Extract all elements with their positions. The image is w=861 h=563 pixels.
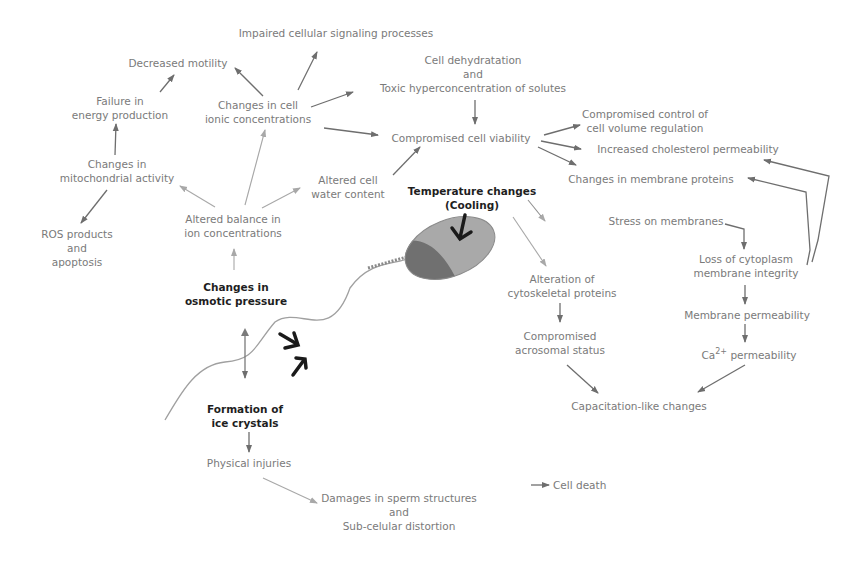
node-temperature: Temperature changes (Cooling) [408, 184, 536, 212]
node-ionic-changes: Changes in cell ionic concentrations [205, 98, 311, 126]
node-cholesterol: Increased cholesterol permeability [597, 142, 779, 156]
node-membrane-permeability: Membrane permeability [684, 308, 810, 322]
node-volume-control: Compromised control of cell volume regul… [582, 107, 708, 135]
node-cell-dehydration: Cell dehydratation and Toxic hyperconcen… [380, 53, 566, 95]
node-acrosomal: Compromised acrosomal status [515, 329, 605, 357]
sperm-midpiece [368, 256, 410, 268]
sperm-head [396, 204, 504, 291]
node-cytoskeletal: Alteration of cytoskeletal proteins [507, 272, 616, 300]
node-impaired-signaling: Impaired cellular signaling processes [239, 26, 434, 40]
node-physical-injuries: Physical injuries [207, 456, 291, 470]
node-ros: ROS products and apoptosis [41, 227, 112, 269]
node-compromised-viability: Compromised cell viability [392, 131, 531, 145]
double-arrow [241, 328, 249, 378]
node-ca-permeability: Ca2+ permeability [701, 345, 796, 362]
node-failure-energy: Failure in energy production [72, 94, 168, 122]
node-osmotic: Changes in osmotic pressure [185, 280, 287, 308]
node-ice-crystals: Formation of ice crystals [207, 402, 283, 430]
cryoinjury-diagram: Impaired cellular signaling processes De… [0, 0, 861, 563]
node-mito-activity: Changes in mitochondrial activity [60, 157, 175, 185]
node-capacitation: Capacitation-like changes [571, 399, 706, 413]
node-water-content: Altered cell water content [311, 173, 384, 201]
node-loss-integrity: Loss of cytoplasm membrane integrity [693, 252, 798, 280]
node-damages: Damages in sperm structures and Sub-celu… [321, 491, 476, 533]
node-cell-death: Cell death [553, 478, 606, 492]
node-membrane-proteins: Changes in membrane proteins [568, 172, 734, 186]
node-ion-balance: Altered balance in ion concentrations [184, 212, 282, 240]
node-decreased-motility: Decreased motility [128, 56, 227, 70]
node-stress-membranes: Stress on membranes [609, 214, 724, 228]
